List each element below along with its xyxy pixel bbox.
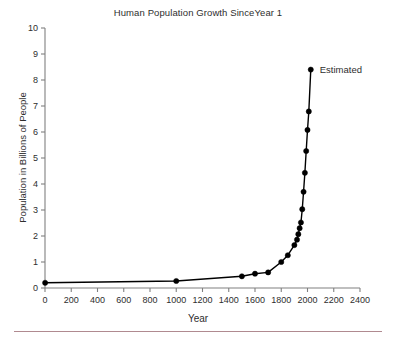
x-axis-tick-label: 2200 [324,295,344,305]
data-line [45,70,311,283]
y-axis-tick-label: 4 [33,179,38,189]
x-axis-tick-label: 0 [42,295,47,305]
estimated-annotation: Estimated [320,64,362,75]
y-axis-tick-label: 5 [33,153,38,163]
data-point-marker [239,274,244,279]
data-point-marker [294,237,299,242]
x-axis-tick-label: 1000 [166,295,186,305]
data-point-marker [285,253,290,258]
x-axis-tick-label: 1800 [271,295,291,305]
data-point-marker [302,170,307,175]
data-point-marker [300,207,305,212]
x-axis-tick-label: 400 [90,295,105,305]
plot-area: 0123456789100200400600800100012001400160… [0,0,396,341]
x-axis-tick-label: 1600 [245,295,265,305]
x-axis-tick-label: 200 [64,295,79,305]
y-axis-tick-label: 3 [33,205,38,215]
x-axis-tick-label: 1200 [192,295,212,305]
y-axis-tick-label: 2 [33,231,38,241]
data-point-marker [43,280,48,285]
data-point-marker [308,67,313,72]
data-point-marker [305,127,310,132]
data-point-marker [252,271,257,276]
x-axis-label: Year [0,313,396,324]
data-point-marker [306,109,311,114]
data-point-marker [296,232,301,237]
y-axis-tick-label: 9 [33,49,38,59]
population-growth-chart: Human Population Growth SinceYear 1 Popu… [0,0,396,341]
y-axis-tick-label: 1 [33,257,38,267]
y-axis-tick-label: 0 [33,283,38,293]
x-axis-tick-label: 800 [142,295,157,305]
data-point-marker [279,259,284,264]
x-axis-tick-label: 2400 [350,295,370,305]
y-axis-tick-label: 10 [28,23,38,33]
data-point-marker [297,226,302,231]
data-point-marker [298,220,303,225]
bottom-divider [14,331,382,332]
data-point-marker [292,243,297,248]
data-point-marker [304,148,309,153]
y-axis-tick-label: 8 [33,75,38,85]
x-axis-tick-label: 600 [116,295,131,305]
x-axis-tick-label: 1400 [219,295,239,305]
data-point-marker [266,270,271,275]
x-axis-tick-label: 2000 [297,295,317,305]
data-point-marker [174,278,179,283]
y-axis-tick-label: 7 [33,101,38,111]
data-point-marker [301,189,306,194]
y-axis-tick-label: 6 [33,127,38,137]
